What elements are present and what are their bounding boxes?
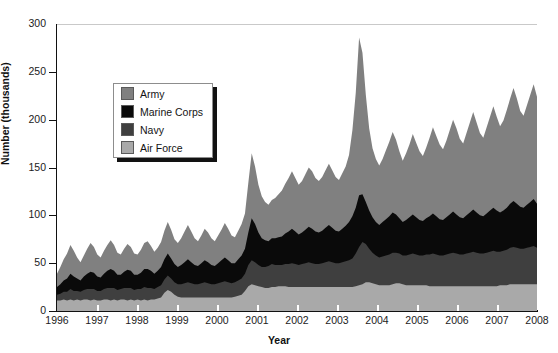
x-tick-label: 2006: [435, 314, 479, 326]
x-tick-mark: [297, 305, 299, 311]
x-tick-label: 2002: [275, 314, 319, 326]
x-tick-mark: [257, 305, 259, 311]
stacked-area-series: [57, 24, 537, 311]
y-tick-label: 150: [0, 161, 46, 173]
legend-item-air-force: Air Force: [121, 139, 212, 156]
legend-swatch-icon: [121, 141, 134, 154]
y-tick-label: 100: [0, 208, 46, 220]
plot-area: [57, 24, 537, 311]
x-tick-label: 2000: [195, 314, 239, 326]
x-tick-label: 2003: [315, 314, 359, 326]
x-tick-mark: [457, 305, 459, 311]
legend-item-label: Marine Corps: [140, 106, 203, 118]
x-axis-title: Year: [0, 334, 558, 346]
x-tick-mark: [137, 305, 139, 311]
legend-item-label: Army: [140, 88, 165, 100]
x-tick-label: 2001: [235, 314, 279, 326]
x-tick-mark: [417, 305, 419, 311]
x-tick-mark: [177, 305, 179, 311]
x-tick-mark: [377, 305, 379, 311]
x-tick-label: 2007: [475, 314, 519, 326]
legend-item-label: Air Force: [140, 142, 183, 154]
legend-item-marine-corps: Marine Corps: [121, 103, 212, 120]
x-tick-label: 1996: [35, 314, 79, 326]
x-tick-mark: [497, 305, 499, 311]
y-tick-label: 250: [0, 65, 46, 77]
x-axis-title-text: Year: [268, 334, 290, 346]
y-tick-label: 50: [0, 256, 46, 268]
legend-swatch-icon: [121, 105, 134, 118]
x-tick-label: 2008: [515, 314, 558, 326]
x-tick-label: 1999: [155, 314, 199, 326]
legend-item-army: Army: [121, 85, 212, 102]
y-tick-label: 200: [0, 113, 46, 125]
x-tick-label: 1997: [75, 314, 119, 326]
x-tick-mark: [97, 305, 99, 311]
x-tick-mark: [337, 305, 339, 311]
gridline-300: [57, 24, 537, 25]
x-tick-mark: [217, 305, 219, 311]
x-tick-label: 2004: [355, 314, 399, 326]
legend-swatch-icon: [121, 123, 134, 136]
legend: ArmyMarine CorpsNavyAir Force: [113, 83, 213, 158]
y-tick-label: 300: [0, 17, 46, 29]
chart-figure: Number (thousands) 300250200150100500 19…: [0, 0, 558, 353]
x-tick-label: 1998: [115, 314, 159, 326]
legend-item-navy: Navy: [121, 121, 212, 138]
legend-item-label: Navy: [140, 124, 164, 136]
legend-swatch-icon: [121, 87, 134, 100]
x-tick-label: 2005: [395, 314, 439, 326]
